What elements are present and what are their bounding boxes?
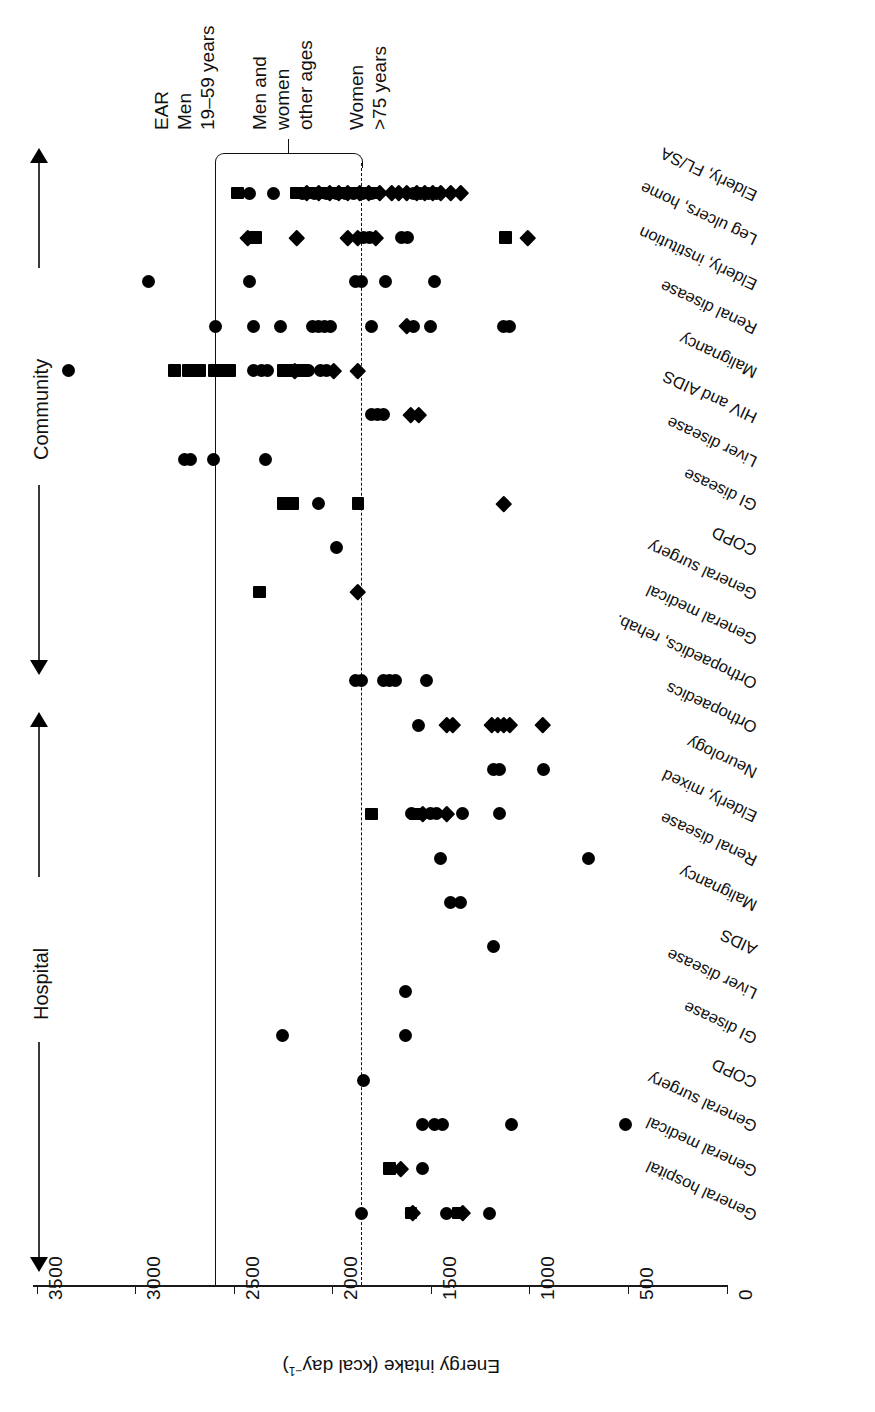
data-point-circle [377, 408, 390, 421]
data-point-circle [436, 1118, 449, 1131]
data-point-circle [355, 1207, 368, 1220]
data-point-circle [379, 275, 392, 288]
community-arrow-head-bottom [30, 660, 48, 675]
data-point-circle [247, 320, 260, 333]
data-point-diamond [519, 229, 535, 245]
hospital-arrow-head-bottom [30, 1257, 48, 1272]
data-point-square [499, 231, 512, 244]
axis-title-text: Energy intake (kcal day [303, 1356, 501, 1377]
data-point-circle [428, 275, 441, 288]
category-label: Malignancy [676, 862, 760, 914]
axis-tick-label: 2500 [242, 1256, 264, 1300]
data-point-diamond [535, 717, 551, 733]
data-point-circle [324, 320, 337, 333]
annotation-women-over-75: Women >75 years [345, 46, 391, 130]
annotation-men-women-other-ages: Men and women other ages [248, 40, 317, 130]
annotation-mid-line3: other ages [294, 40, 317, 130]
annotation-mid-line1: Men and [248, 40, 271, 130]
data-point-circle [434, 852, 447, 865]
data-point-circle [582, 852, 595, 865]
data-point-square [365, 808, 378, 821]
annotation-brace [215, 153, 363, 168]
annotation-ear-line3: 19–59 years [196, 25, 219, 130]
hospital-axis-line-top [38, 727, 39, 877]
axis-tick [628, 1286, 629, 1294]
data-point-circle [420, 674, 433, 687]
category-label: Malignancy [676, 330, 760, 382]
axis-tick [332, 1286, 333, 1294]
data-point-circle [424, 320, 437, 333]
axis-title-paren: ) [282, 1356, 288, 1377]
annotation-ear-line2: Men [173, 25, 196, 130]
category-label: GI disease [681, 997, 761, 1048]
hospital-group-label: Hospital [30, 948, 53, 1020]
data-point-circle [276, 1029, 289, 1042]
data-point-diamond [496, 495, 512, 511]
data-point-circle [62, 364, 75, 377]
axis-tick [135, 1286, 136, 1294]
annotation-ear-line1: EAR [150, 25, 173, 130]
data-point-circle [416, 1162, 429, 1175]
data-point-circle [456, 807, 469, 820]
data-point-circle [389, 674, 402, 687]
category-label: COPD [709, 1055, 760, 1092]
data-point-circle [243, 187, 256, 200]
data-point-circle [401, 231, 414, 244]
category-label: AIDS [717, 925, 760, 958]
data-point-circle [619, 1118, 632, 1131]
axis-tick [37, 1286, 38, 1294]
data-point-square [249, 231, 262, 244]
data-point-circle [537, 763, 550, 776]
hospital-axis-line-bottom [38, 1042, 39, 1257]
axis-tick-label: 2000 [340, 1256, 362, 1300]
data-point-circle [399, 1029, 412, 1042]
data-point-circle [142, 275, 155, 288]
data-point-circle [412, 719, 425, 732]
community-group-label: Community [30, 359, 53, 460]
category-label: GI disease [681, 465, 761, 516]
data-point-circle [355, 275, 368, 288]
data-point-square [231, 187, 244, 200]
category-label: COPD [709, 522, 760, 559]
data-point-square [253, 586, 266, 599]
annotation-brace-nub [288, 139, 289, 154]
community-arrow-head-top [30, 148, 48, 163]
annotation-low-line1: Women [345, 46, 368, 130]
data-point-circle [503, 320, 516, 333]
data-point-circle [355, 674, 368, 687]
axis-title-exponent: −1 [289, 1364, 303, 1378]
annotation-mid-line2: women [271, 40, 294, 130]
data-point-circle [330, 541, 343, 554]
data-point-square [194, 364, 207, 377]
community-axis-line-bottom [38, 485, 39, 660]
data-point-circle [505, 1118, 518, 1131]
axis-title: Energy intake (kcal day−1) [282, 1355, 500, 1378]
data-point-circle [274, 320, 287, 333]
axis-tick [529, 1286, 530, 1294]
category-label: Neurology [684, 733, 760, 782]
data-point-circle [259, 453, 272, 466]
data-point-circle [407, 320, 420, 333]
data-point-square [168, 364, 181, 377]
x-axis-line [33, 1285, 728, 1287]
data-point-circle [312, 497, 325, 510]
hospital-arrow-head-top [30, 712, 48, 727]
data-point-square [223, 364, 236, 377]
data-point-circle [267, 187, 280, 200]
axis-tick-label: 500 [636, 1267, 658, 1300]
data-point-square [287, 497, 300, 510]
community-axis-line-top [38, 163, 39, 268]
axis-tick-label: 3000 [143, 1256, 165, 1300]
data-point-square [352, 497, 365, 510]
data-point-circle [454, 896, 467, 909]
data-point-circle [209, 320, 222, 333]
annotation-low-line2: >75 years [368, 46, 391, 130]
axis-tick-label: 1000 [537, 1256, 559, 1300]
data-point-circle [440, 1207, 453, 1220]
data-point-circle [487, 940, 500, 953]
data-point-circle [357, 1074, 370, 1087]
data-point-circle [243, 275, 256, 288]
figure-root: 3500300025002000150010005000 Energy inta… [0, 0, 875, 1412]
data-point-circle [493, 807, 506, 820]
axis-tick [431, 1286, 432, 1294]
